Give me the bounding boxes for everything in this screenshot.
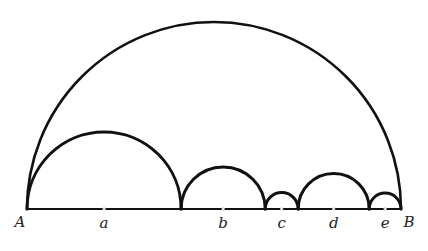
semicircle-c xyxy=(265,193,298,209)
endpoint-label-b: B xyxy=(402,213,414,231)
arcs-group xyxy=(27,22,401,209)
midpoint-tick-e xyxy=(384,208,387,211)
midpoint-tick-c xyxy=(280,208,283,211)
midpoint-tick-b xyxy=(222,208,225,211)
segment-label-a: a xyxy=(100,214,109,232)
semicircle-diagram: A B abcde xyxy=(0,0,428,251)
segment-label-e: e xyxy=(381,214,390,232)
midpoint-tick-d xyxy=(332,208,335,211)
segment-label-b: b xyxy=(218,214,228,232)
semicircle-a xyxy=(27,132,181,209)
semicircle-b xyxy=(181,167,265,209)
segment-labels: abcde xyxy=(100,214,390,232)
semicircle-e xyxy=(369,193,401,209)
segment-label-c: c xyxy=(277,214,286,232)
semicircle-d xyxy=(298,173,369,209)
midpoint-tick-a xyxy=(103,208,106,211)
semicircle-ab xyxy=(27,22,401,209)
segment-label-d: d xyxy=(329,214,339,232)
endpoint-label-a: A xyxy=(13,213,26,231)
